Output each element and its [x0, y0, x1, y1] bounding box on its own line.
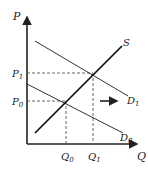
x-axis-label: Q	[137, 150, 146, 163]
d1-label: D1	[126, 95, 140, 108]
supply-curve	[35, 46, 122, 133]
p0-label: P0	[11, 96, 24, 109]
supply-label: S	[123, 37, 130, 48]
d0-label: D0	[119, 132, 133, 145]
q1-label: Q1	[88, 151, 101, 164]
supply-demand-diagram: P Q S D1 D0 P1 P0 Q0 Q1	[0, 0, 148, 171]
q0-label: Q0	[61, 151, 74, 164]
demand-curve-d1	[35, 41, 128, 96]
p1-label: P1	[11, 68, 23, 81]
y-axis-label: P	[12, 10, 21, 23]
